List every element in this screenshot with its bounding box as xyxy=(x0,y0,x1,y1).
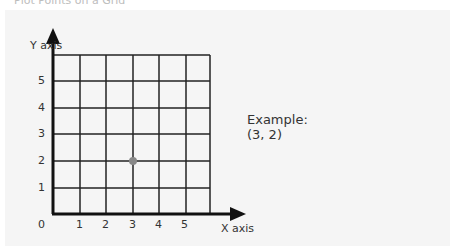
origin-label: 0 xyxy=(38,219,45,230)
example-annotation: Example: (3, 2) xyxy=(247,112,308,142)
y-tick-label: 2 xyxy=(38,155,45,166)
y-tick-label: 4 xyxy=(38,102,45,113)
y-tick-label: 3 xyxy=(38,128,45,139)
coordinate-grid xyxy=(0,0,455,252)
y-axis-label: Y axis xyxy=(30,40,62,51)
x-tick-label: 4 xyxy=(155,219,162,230)
y-tick-label: 5 xyxy=(38,75,45,86)
y-tick-label: 1 xyxy=(38,182,45,193)
x-tick-label: 3 xyxy=(129,219,136,230)
x-tick-label: 2 xyxy=(102,219,109,230)
x-tick-label: 1 xyxy=(76,219,83,230)
grid-lines xyxy=(53,55,210,214)
y-axis xyxy=(46,28,60,214)
plotted-point xyxy=(129,157,137,165)
x-axis-arrow-icon xyxy=(230,207,246,221)
example-title: Example: xyxy=(247,112,308,127)
x-axis-label: X axis xyxy=(221,223,254,234)
x-tick-label: 5 xyxy=(181,219,188,230)
example-coords: (3, 2) xyxy=(247,127,308,142)
